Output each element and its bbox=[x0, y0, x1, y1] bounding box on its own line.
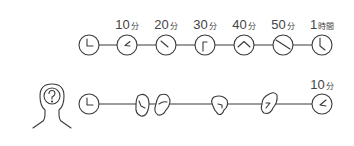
clock-icon-10min-bottom bbox=[312, 94, 332, 114]
label-30min: 30分 bbox=[193, 18, 216, 31]
distorted-clock-icon-1 bbox=[136, 94, 149, 116]
label-20min: 20分 bbox=[154, 18, 177, 31]
distorted-clock-icon-3 bbox=[212, 96, 228, 115]
label-50min: 50分 bbox=[271, 18, 294, 31]
clock-icon-start bbox=[79, 94, 99, 114]
label-bottom-10min: 10分 bbox=[310, 78, 333, 91]
clock-icon-30min bbox=[195, 35, 215, 55]
clock-icon-50min bbox=[273, 35, 293, 55]
clock-icon-10min bbox=[117, 35, 137, 55]
person-with-question-icon bbox=[33, 84, 71, 128]
clock-icon-40min bbox=[234, 35, 254, 55]
distorted-clock-icon-2 bbox=[155, 94, 170, 115]
label-10min: 10分 bbox=[115, 18, 138, 31]
clock-icon-0min bbox=[79, 35, 99, 55]
label-1hour: 1時間 bbox=[310, 18, 334, 31]
clock-icon-60min bbox=[312, 35, 332, 55]
label-40min: 40分 bbox=[232, 18, 255, 31]
clock-icon-20min bbox=[156, 35, 176, 55]
distorted-clock-icon-4 bbox=[261, 93, 277, 114]
